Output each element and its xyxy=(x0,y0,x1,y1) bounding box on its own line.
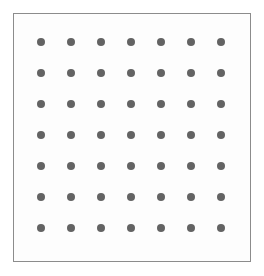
grid-dot xyxy=(37,224,45,232)
grid-dot xyxy=(97,69,105,77)
grid-dot xyxy=(37,131,45,139)
grid-dot xyxy=(67,193,75,201)
grid-dot xyxy=(217,100,225,108)
grid-dot xyxy=(37,38,45,46)
grid-dot xyxy=(157,162,165,170)
grid-dot xyxy=(157,224,165,232)
dot-layer xyxy=(14,14,250,261)
grid-dot xyxy=(127,100,135,108)
grid-dot xyxy=(217,131,225,139)
grid-dot xyxy=(97,38,105,46)
grid-dot xyxy=(127,224,135,232)
grid-dot xyxy=(67,224,75,232)
grid-dot xyxy=(187,38,195,46)
grid-dot xyxy=(67,162,75,170)
grid-dot xyxy=(217,38,225,46)
grid-dot xyxy=(127,131,135,139)
grid-dot xyxy=(217,224,225,232)
grid-dot xyxy=(187,69,195,77)
grid-dot xyxy=(37,162,45,170)
grid-dot xyxy=(187,224,195,232)
grid-dot xyxy=(127,162,135,170)
grid-dot xyxy=(67,38,75,46)
grid-dot xyxy=(187,162,195,170)
grid-dot xyxy=(67,131,75,139)
grid-dot xyxy=(157,38,165,46)
grid-dot xyxy=(97,224,105,232)
grid-dot xyxy=(97,100,105,108)
grid-dot xyxy=(217,69,225,77)
dot-grid-panel xyxy=(13,13,251,262)
grid-dot xyxy=(127,193,135,201)
dot-grid-figure xyxy=(0,0,264,276)
grid-dot xyxy=(67,69,75,77)
grid-dot xyxy=(67,100,75,108)
grid-dot xyxy=(187,193,195,201)
grid-dot xyxy=(217,193,225,201)
grid-dot xyxy=(187,100,195,108)
grid-dot xyxy=(217,162,225,170)
grid-dot xyxy=(37,100,45,108)
grid-dot xyxy=(37,193,45,201)
grid-dot xyxy=(127,69,135,77)
grid-dot xyxy=(97,131,105,139)
grid-dot xyxy=(157,193,165,201)
grid-dot xyxy=(157,131,165,139)
grid-dot xyxy=(157,100,165,108)
grid-dot xyxy=(97,162,105,170)
grid-dot xyxy=(157,69,165,77)
grid-dot xyxy=(97,193,105,201)
grid-dot xyxy=(127,38,135,46)
grid-dot xyxy=(187,131,195,139)
grid-dot xyxy=(37,69,45,77)
